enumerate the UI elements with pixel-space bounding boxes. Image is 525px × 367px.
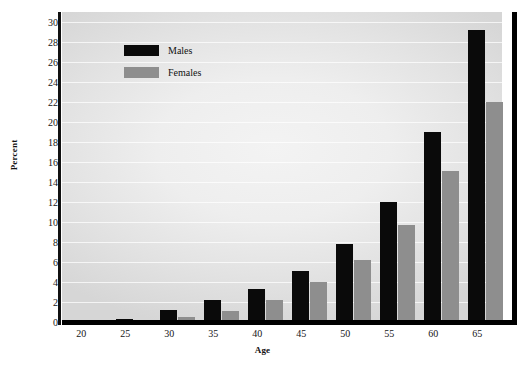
- bar-chart-figure: Percent 024681012141618202224262830 2025…: [0, 0, 525, 367]
- x-axis-title: Age: [0, 345, 525, 355]
- right-axis-line: [512, 12, 517, 325]
- y-axis-tick-labels: 024681012141618202224262830: [30, 0, 58, 367]
- y-axis-tick-label: 28: [30, 37, 58, 48]
- legend-item: Males: [124, 42, 234, 59]
- x-axis-tick-label: 55: [374, 328, 404, 339]
- bar-females: [354, 260, 371, 322]
- bar-males: [248, 289, 265, 322]
- x-axis-tick-label: 40: [242, 328, 272, 339]
- y-axis-tick-label: 26: [30, 57, 58, 68]
- bar-group: [292, 12, 326, 322]
- bar-group: [72, 12, 106, 322]
- bar-males: [424, 132, 441, 322]
- x-axis-line: [62, 320, 517, 325]
- y-axis-tick-label: 16: [30, 157, 58, 168]
- y-axis-tick-label: 24: [30, 77, 58, 88]
- chart-legend: MalesFemales: [124, 42, 234, 86]
- legend-label: Females: [168, 67, 201, 78]
- x-axis-tick-label: 60: [418, 328, 448, 339]
- y-axis-title: Percent: [9, 115, 19, 195]
- y-axis-tick-label: 22: [30, 97, 58, 108]
- bar-group: [336, 12, 370, 322]
- bar-males: [204, 300, 221, 322]
- legend-item: Females: [124, 64, 234, 81]
- x-axis-tick-label: 65: [462, 328, 492, 339]
- bar-females: [398, 225, 415, 322]
- x-axis-tick-label: 50: [330, 328, 360, 339]
- bar-females: [442, 171, 459, 322]
- y-axis-tick-label: 2: [30, 297, 58, 308]
- bar-group: [468, 12, 502, 322]
- y-axis-tick-label: 10: [30, 217, 58, 228]
- y-axis-tick-label: 30: [30, 17, 58, 28]
- bar-group: [248, 12, 282, 322]
- bar-group: [380, 12, 414, 322]
- x-axis-tick-label: 45: [286, 328, 316, 339]
- y-axis-tick-label: 8: [30, 237, 58, 248]
- bar-group: [424, 12, 458, 322]
- bar-males: [292, 271, 309, 322]
- legend-swatch: [124, 45, 159, 56]
- bar-males: [336, 244, 353, 322]
- x-axis-tick-labels: 20253035404550556065: [62, 328, 502, 344]
- bar-males: [380, 202, 397, 322]
- x-axis-tick-label: 20: [66, 328, 96, 339]
- legend-label: Males: [168, 45, 192, 56]
- x-axis-tick-label: 30: [154, 328, 184, 339]
- bar-females: [266, 300, 283, 322]
- bar-females: [486, 102, 503, 322]
- y-axis-tick-label: 18: [30, 137, 58, 148]
- bar-females: [310, 282, 327, 322]
- y-axis-line: [58, 12, 61, 325]
- y-axis-tick-label: 6: [30, 257, 58, 268]
- bar-males: [468, 30, 485, 322]
- x-axis-tick-label: 35: [198, 328, 228, 339]
- y-axis-tick-label: 12: [30, 197, 58, 208]
- y-axis-tick-label: 20: [30, 117, 58, 128]
- y-axis-tick-label: 14: [30, 177, 58, 188]
- x-axis-tick-label: 25: [110, 328, 140, 339]
- y-axis-tick-label: 4: [30, 277, 58, 288]
- y-axis-tick-label: 0: [30, 317, 58, 328]
- legend-swatch: [124, 67, 159, 78]
